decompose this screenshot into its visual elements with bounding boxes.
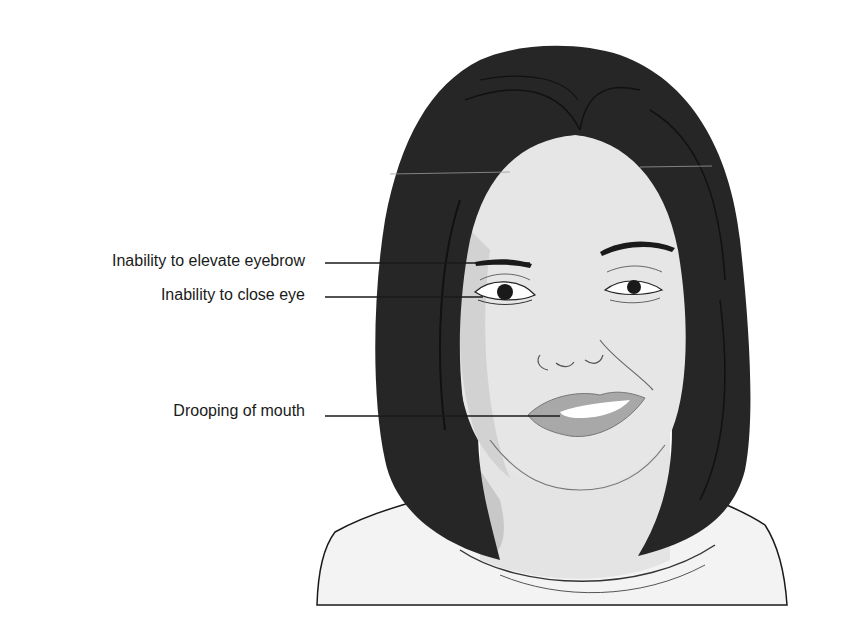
face-illustration bbox=[0, 0, 862, 639]
eyebrow-annotation-label: Inability to elevate eyebrow bbox=[112, 252, 305, 270]
facial-palsy-diagram: Inability to elevate eyebrow Inability t… bbox=[0, 0, 862, 639]
mouth-annotation-label: Drooping of mouth bbox=[173, 402, 305, 420]
eye-annotation-label: Inability to close eye bbox=[161, 286, 305, 304]
